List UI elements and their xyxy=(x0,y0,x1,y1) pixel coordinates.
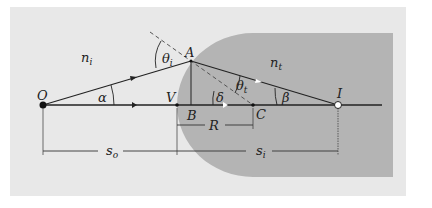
label-I: I xyxy=(336,86,343,101)
label-alpha: α xyxy=(98,90,107,105)
point-C xyxy=(251,103,255,107)
label-beta: β xyxy=(281,90,290,105)
refraction-diagram: ni nt O A V B C I α β δ θi θt so si R xyxy=(0,0,432,208)
point-V xyxy=(175,103,179,107)
label-O: O xyxy=(37,88,48,103)
label-R: R xyxy=(208,118,219,133)
label-B: B xyxy=(186,108,197,123)
label-delta: δ xyxy=(216,90,224,105)
label-A: A xyxy=(184,45,194,60)
point-I xyxy=(335,102,342,109)
label-V: V xyxy=(166,90,177,105)
label-C: C xyxy=(256,107,266,122)
